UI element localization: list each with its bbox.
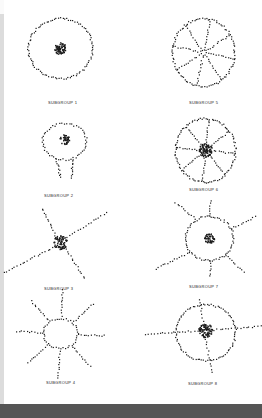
subgroup-labels: SUBGROUP 1SUBGROUP 5SUBGROUP 2SUBGROUP 6…	[44, 100, 219, 386]
bottom-dark-band	[0, 404, 262, 418]
dot-patterns	[4, 17, 262, 379]
subgroup-label: SUBGROUP 3	[44, 286, 74, 291]
subgroup-label: SUBGROUP 8	[188, 381, 218, 386]
subgroup-label: SUBGROUP 7	[189, 284, 219, 289]
subgroup-label: SUBGROUP 5	[189, 100, 219, 105]
subgroup-figure: SUBGROUP 1SUBGROUP 5SUBGROUP 2SUBGROUP 6…	[0, 0, 262, 418]
subgroup-label: SUBGROUP 4	[46, 380, 76, 385]
subgroup-label: SUBGROUP 2	[44, 193, 74, 198]
subgroup-label: SUBGROUP 1	[48, 100, 78, 105]
subgroup-label: SUBGROUP 6	[189, 187, 219, 192]
